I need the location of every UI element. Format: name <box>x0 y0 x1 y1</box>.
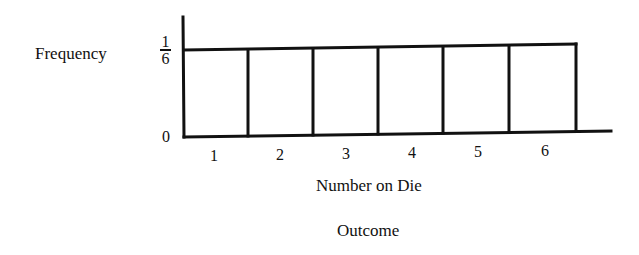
chart-caption: Outcome <box>337 221 399 241</box>
x-tick-3: 3 <box>342 145 350 163</box>
y-axis-label: Frequency <box>35 44 107 64</box>
x-tick-2: 2 <box>276 146 284 164</box>
x-tick-1: 1 <box>210 147 218 165</box>
bars-top <box>184 44 576 50</box>
x-tick-6: 6 <box>541 142 549 160</box>
x-axis-label: Number on Die <box>316 176 422 196</box>
y-tick-one-sixth: 1 6 <box>160 34 171 66</box>
tick-numerator: 1 <box>162 33 170 50</box>
y-axis <box>183 17 184 137</box>
x-tick-4: 4 <box>408 144 416 162</box>
x-tick-5: 5 <box>474 143 482 161</box>
y-tick-zero: 0 <box>162 128 170 146</box>
histogram <box>0 0 639 255</box>
tick-denominator: 6 <box>162 50 170 67</box>
